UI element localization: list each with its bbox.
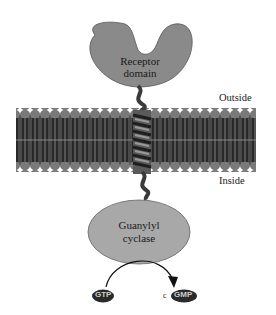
- cyclase-label-line1: Guanylyl: [104, 219, 174, 232]
- reaction-arrow: [106, 261, 173, 287]
- diagram-canvas: [0, 0, 276, 315]
- transmembrane-helix: [133, 110, 151, 174]
- guanylyl-cyclase-label: Guanylyl cyclase: [104, 219, 174, 245]
- arrowhead-icon: [168, 276, 178, 288]
- receptor-domain-label: Receptor domain: [110, 55, 170, 79]
- gtp-label: GTP: [95, 290, 111, 299]
- cyclase-label-line2: cyclase: [104, 232, 174, 245]
- cgmp-prefix-label: c: [163, 291, 167, 300]
- cgmp-label: GMP: [174, 290, 192, 299]
- linker-lower: [142, 172, 148, 200]
- receptor-label-line1: Receptor: [110, 55, 170, 67]
- outside-label: Outside: [219, 92, 252, 103]
- inside-label: Inside: [219, 175, 245, 186]
- receptor-label-line2: domain: [110, 67, 170, 79]
